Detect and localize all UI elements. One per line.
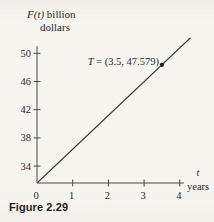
y-tick-label: 38 bbox=[21, 132, 32, 143]
figure-caption: Figure 2.29 bbox=[9, 201, 68, 213]
tangent-point-dot bbox=[160, 63, 164, 67]
y-tick-label: 50 bbox=[21, 48, 32, 59]
x-tick-label: 3 bbox=[140, 190, 145, 201]
y-tick-label: 46 bbox=[21, 76, 32, 87]
chart-svg: F(t) billion dollars T = (3.5, 47.579) t… bbox=[0, 0, 214, 222]
y-axis-title-line1: F(t) billion bbox=[26, 8, 76, 21]
x-tick-label: 0 bbox=[33, 190, 38, 201]
x-tick-label: 2 bbox=[105, 190, 110, 201]
y-axis-function-symbol: F(t) bbox=[26, 8, 44, 21]
y-axis-unit-text: billion bbox=[44, 8, 76, 20]
x-tick-label: 4 bbox=[176, 190, 182, 201]
y-axis-title-line2: dollars bbox=[40, 21, 70, 33]
figure-2-29: F(t) billion dollars T = (3.5, 47.579) t… bbox=[0, 0, 214, 222]
y-tick-label: 34 bbox=[21, 161, 32, 172]
x-axis-unit-label: years bbox=[187, 181, 209, 192]
tangent-point-coordinates: = (3.5, 47.579) bbox=[94, 56, 160, 68]
y-tick-label: 42 bbox=[21, 104, 32, 115]
x-tick-label: 1 bbox=[69, 190, 74, 201]
tangent-point-label: T = (3.5, 47.579) bbox=[88, 56, 160, 68]
x-axis-variable-symbol: t bbox=[197, 167, 201, 178]
